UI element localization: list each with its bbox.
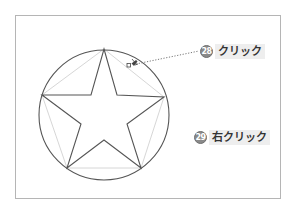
step-badge-28: 28 — [200, 45, 213, 58]
pen-cursor-icon — [127, 59, 138, 67]
circle-shape[interactable] — [39, 50, 169, 180]
leader-line — [136, 51, 199, 64]
drawing-svg — [0, 0, 294, 214]
callout-label-click: クリック — [215, 44, 265, 59]
callout-label-right-click: 右クリック — [209, 130, 270, 145]
step-badge-29: 29 — [194, 131, 207, 144]
callout-click: 28 クリック — [200, 44, 265, 59]
callout-right-click: 29 右クリック — [194, 130, 270, 145]
